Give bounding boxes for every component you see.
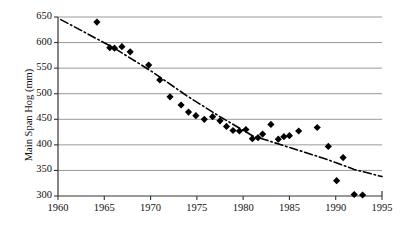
data-point (93, 19, 100, 26)
y-tick-label: 650 (18, 10, 52, 21)
x-tick-label: 1965 (84, 202, 124, 213)
data-point (267, 121, 274, 128)
y-tick-label: 450 (18, 112, 52, 123)
data-point (201, 116, 208, 123)
y-tick-label: 500 (18, 87, 52, 98)
chart-container: Main Span Hog (mm) 650600550500450400350… (0, 0, 406, 229)
data-point (295, 127, 302, 134)
data-point (229, 127, 236, 134)
trendline (61, 20, 382, 177)
data-point (340, 154, 347, 161)
y-tick-label: 600 (18, 36, 52, 47)
x-tick-label: 1990 (316, 202, 356, 213)
x-tick-label: 1995 (362, 202, 402, 213)
data-point (236, 127, 243, 134)
x-tick-label: 1975 (177, 202, 217, 213)
data-point (314, 124, 321, 131)
data-point (249, 135, 256, 142)
trendline-path (61, 20, 382, 177)
data-point (223, 123, 230, 130)
plot-area (0, 0, 406, 229)
data-point (351, 191, 358, 198)
data-point (178, 101, 185, 108)
gridlines-group (58, 17, 382, 170)
x-tick-label: 1980 (223, 202, 263, 213)
data-point (359, 191, 366, 198)
data-point (286, 132, 293, 139)
data-points-group (93, 19, 366, 199)
data-point (166, 93, 173, 100)
data-point (325, 143, 332, 150)
y-tick-label: 400 (18, 138, 52, 149)
data-point (156, 76, 163, 83)
data-point (333, 177, 340, 184)
data-point (192, 112, 199, 119)
tick-marks-group (54, 17, 382, 200)
x-tick-label: 1960 (38, 202, 78, 213)
data-point (185, 109, 192, 116)
y-tick-label: 350 (18, 163, 52, 174)
data-point (242, 126, 249, 133)
data-point (127, 48, 134, 55)
data-point (118, 43, 125, 50)
x-tick-label: 1970 (131, 202, 171, 213)
x-tick-label: 1985 (269, 202, 309, 213)
y-tick-label: 550 (18, 61, 52, 72)
y-tick-label: 300 (18, 189, 52, 200)
